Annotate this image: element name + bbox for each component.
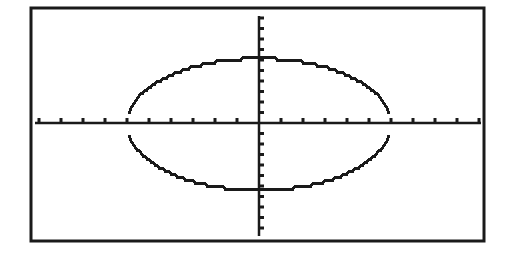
x-tick [236, 118, 239, 123]
x-tick [434, 118, 437, 123]
x-tick [280, 118, 283, 123]
x-tick [412, 118, 415, 123]
graph-plot [0, 0, 506, 253]
y-tick [259, 80, 264, 83]
y-tick [259, 206, 264, 209]
x-tick [60, 118, 63, 123]
y-tick [259, 48, 264, 51]
y-tick [259, 195, 264, 198]
y-tick [259, 27, 264, 30]
x-tick [170, 118, 173, 123]
x-tick [192, 118, 195, 123]
x-tick [38, 118, 41, 123]
y-tick [259, 216, 264, 219]
x-tick [214, 118, 217, 123]
y-tick [259, 17, 264, 20]
y-tick [259, 143, 264, 146]
x-tick [324, 118, 327, 123]
x-tick [148, 118, 151, 123]
calculator-graph-screen [0, 0, 506, 253]
y-tick [259, 132, 264, 135]
x-tick [104, 118, 107, 123]
y-tick [259, 153, 264, 156]
x-tick [126, 118, 129, 123]
y-tick [259, 227, 264, 230]
x-tick [82, 118, 85, 123]
y-tick [259, 38, 264, 41]
x-tick [390, 118, 393, 123]
y-tick [259, 185, 264, 188]
axes [35, 16, 481, 236]
y-tick [259, 59, 264, 62]
x-tick [346, 118, 349, 123]
x-tick [302, 118, 305, 123]
x-tick [368, 118, 371, 123]
y-tick [259, 111, 264, 114]
x-tick [478, 118, 481, 123]
y-tick [259, 69, 264, 72]
x-tick [456, 118, 459, 123]
y-tick [259, 90, 264, 93]
y-tick [259, 164, 264, 167]
y-tick [259, 174, 264, 177]
y-tick [259, 101, 264, 104]
viewing-window-frame [31, 8, 484, 241]
